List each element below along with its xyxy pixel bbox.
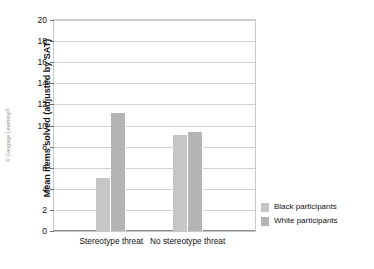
legend-swatch-icon <box>261 203 269 212</box>
plot-area: 20181614121086420 Stereotype threatNo st… <box>53 19 256 232</box>
y-axis-tick-label: 16 <box>7 58 54 67</box>
legend: Black participantsWhite participants <box>261 200 373 228</box>
figure: © Cengage Learning® Mean items solved (a… <box>0 0 374 269</box>
legend-swatch-icon <box>261 217 269 226</box>
legend-item: Black participants <box>261 200 373 214</box>
x-axis-category-label: Stereotype threat <box>79 237 143 245</box>
legend-item: White participants <box>261 214 373 228</box>
y-axis-tick-label: 8 <box>7 142 54 151</box>
y-axis-tick-label: 0 <box>7 227 54 236</box>
bar-series-layer <box>54 20 255 231</box>
y-axis-tick-label: 4 <box>7 185 54 194</box>
y-axis-tick-label: 12 <box>7 100 54 109</box>
legend-label: White participants <box>274 217 338 225</box>
y-axis-tick-label: 18 <box>7 37 54 46</box>
bar <box>173 135 188 231</box>
y-axis-tick-label: 2 <box>7 206 54 215</box>
bar <box>111 113 126 231</box>
y-axis-tick-label: 6 <box>7 163 54 172</box>
y-axis-tick-label: 20 <box>7 16 54 25</box>
bar <box>96 178 111 231</box>
y-axis-tick-label: 14 <box>7 79 54 88</box>
x-axis-category-label: No stereotype threat <box>150 237 225 245</box>
legend-label: Black participants <box>274 203 337 211</box>
y-axis-tick-label: 10 <box>7 121 54 130</box>
bar <box>188 132 203 231</box>
